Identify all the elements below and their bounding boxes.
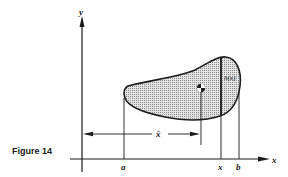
arrow-right-icon	[190, 132, 200, 136]
centroid-icon	[197, 84, 205, 92]
x-bar-dimension	[83, 132, 200, 136]
figure-caption: Figure 14	[12, 146, 52, 156]
tick-label-b: b	[236, 162, 241, 172]
x-axis-label: x	[271, 155, 277, 165]
tick-label-x: x	[217, 162, 223, 172]
tick-label-a: a	[121, 162, 126, 172]
shaded-region	[124, 57, 240, 120]
x-axis-arrow-icon	[258, 157, 270, 162]
y-axis	[80, 16, 85, 172]
region-height-label: h(x)	[224, 74, 236, 82]
y-axis-label: y	[78, 7, 84, 17]
y-axis-arrow-icon	[80, 16, 85, 27]
arrow-left-icon	[83, 132, 93, 136]
x-axis	[70, 157, 270, 162]
x-bar-label: x̄	[155, 129, 161, 139]
